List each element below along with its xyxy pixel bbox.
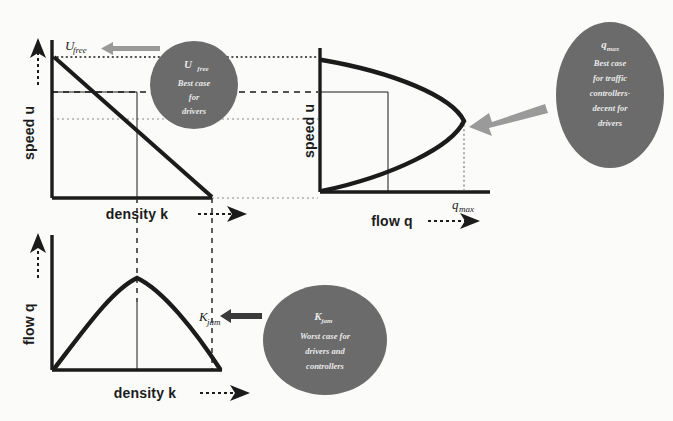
callout-kjam[interactable]: K jam Worst case for drivers and control… xyxy=(263,285,387,395)
traffic-flow-diagram: speed u density k U free xyxy=(0,0,673,421)
x-axis-label-speed-flow: flow q xyxy=(371,213,413,229)
callout-kjam-title-sub: jam xyxy=(321,317,333,325)
chart-flow-vs-density: flow q density k K jam xyxy=(21,235,248,401)
kjam-subscript: jam xyxy=(206,317,221,327)
kjam-tick-label: K jam xyxy=(198,309,221,327)
x-axis-label-flow-density: density k xyxy=(114,385,177,401)
speed-flow-curve xyxy=(322,60,464,191)
y-axis-label-speed-flow: speed u xyxy=(301,104,317,158)
callout-qmax-line-3: controllers- xyxy=(590,88,631,98)
ufree-tick-label: U free xyxy=(65,38,87,55)
callout-ufree-title: U xyxy=(184,58,193,70)
chart-speed-vs-flow: speed u flow q q max xyxy=(301,48,490,229)
callout-qmax-line-4: decent for xyxy=(592,103,628,113)
y-axis-label-speed-density: speed u xyxy=(21,106,37,160)
callout-qmax-line-1: Best case xyxy=(593,58,627,68)
y-axis-label-flow-density: flow q xyxy=(21,303,37,345)
callout-ufree-line-1: Best case xyxy=(177,78,211,88)
callout-ufree[interactable]: U free Best case for drivers xyxy=(150,41,238,129)
qmax-tick-label: q max xyxy=(452,197,474,214)
callout-kjam-line-2: drivers and xyxy=(305,346,345,356)
callout-qmax[interactable]: q max Best case for traffic controllers-… xyxy=(556,22,664,168)
callout-ufree-line-2: for xyxy=(189,92,200,102)
callout-kjam-line-1: Worst case for xyxy=(300,331,351,341)
x-axis-label-speed-density: density k xyxy=(106,206,169,222)
qmax-symbol: q xyxy=(452,197,459,212)
callout-ufree-line-3: drivers xyxy=(182,106,207,116)
ufree-callout-arrow xyxy=(101,42,160,55)
callout-kjam-line-3: controllers xyxy=(306,361,344,371)
kjam-callout-arrow xyxy=(220,309,262,323)
qmax-callout-arrow xyxy=(469,104,548,136)
qmax-subscript: max xyxy=(459,204,474,214)
callout-qmax-title-sub: max xyxy=(607,45,620,53)
ufree-subscript: free xyxy=(73,45,87,55)
diagram-canvas: speed u density k U free xyxy=(0,0,673,421)
callout-qmax-line-2: for traffic xyxy=(593,73,627,83)
callout-ufree-title-sub: free xyxy=(197,65,208,73)
callout-qmax-line-5: drivers xyxy=(598,118,623,128)
